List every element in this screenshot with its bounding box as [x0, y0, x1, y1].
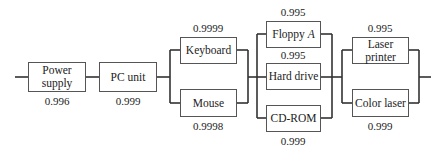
- keyboard-reliability: 0.9999: [173, 22, 243, 34]
- power-supply-reliability: 0.996: [22, 95, 92, 107]
- laser-printer-block: Laser printer: [352, 37, 409, 64]
- color-laser-reliability: 0.999: [345, 120, 415, 132]
- mouse-block: Mouse: [180, 89, 237, 117]
- floppy-label: Floppy: [272, 28, 305, 41]
- pc-unit-block: PC unit: [99, 62, 157, 92]
- floppy-reliability: 0.995: [258, 6, 328, 18]
- cd-rom-reliability: 0.999: [258, 135, 328, 147]
- color-laser-block: Color laser: [352, 89, 409, 117]
- pc-unit-reliability: 0.999: [93, 95, 163, 107]
- hard-drive-block: Hard drive: [266, 63, 321, 90]
- power-supply-label-line2: supply: [42, 77, 73, 90]
- power-supply-block: Power supply: [28, 62, 86, 92]
- laser-printer-reliability: 0.995: [345, 22, 415, 34]
- floppy-a-block: Floppy A: [266, 21, 321, 48]
- power-supply-label-line1: Power: [42, 64, 71, 77]
- floppy-drive-letter: A: [308, 28, 315, 41]
- cd-rom-block: CD-ROM: [266, 105, 321, 132]
- hard-drive-reliability: 0.995: [258, 49, 328, 61]
- keyboard-block: Keyboard: [180, 37, 237, 64]
- mouse-reliability: 0.9998: [173, 120, 243, 132]
